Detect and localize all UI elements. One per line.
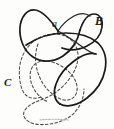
label-curve-b: B	[95, 15, 103, 27]
curve-c-dashed-group	[19, 34, 84, 125]
label-point-a: a	[52, 19, 57, 29]
label-curve-c: C	[4, 77, 11, 88]
figure-canvas: a B C	[0, 0, 114, 129]
curve-b-top-crossing-tail	[58, 14, 90, 31]
curve-b-solid-group	[20, 10, 106, 106]
pencil-smudge	[40, 119, 68, 120]
